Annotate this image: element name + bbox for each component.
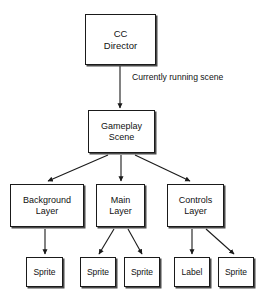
node-label-controls-1[interactable]: Label (174, 257, 210, 287)
node-label-label-controls-1: Label (180, 267, 205, 277)
node-label-sprite-bg-1: Sprite (31, 267, 57, 277)
node-label-controls-layer: Controls Layer (177, 195, 215, 216)
node-label-gameplay-scene: Gameplay Scene (99, 121, 144, 142)
node-label-sprite-controls-1: Sprite (223, 267, 249, 277)
node-cc-director[interactable]: CC Director (85, 14, 156, 65)
node-sprite-main-2[interactable]: Sprite (124, 257, 160, 287)
node-label-background-layer: Background Layer (21, 195, 73, 216)
annotation-currently-running-scene: Currently running scene (132, 72, 223, 82)
diagram-canvas: CC DirectorGameplay SceneBackground Laye… (0, 0, 265, 300)
node-controls-layer[interactable]: Controls Layer (167, 184, 224, 227)
node-background-layer[interactable]: Background Layer (10, 184, 84, 227)
edge-main-to-sprite-2 (128, 229, 142, 254)
node-sprite-main-1[interactable]: Sprite (80, 257, 116, 287)
edge-main-to-sprite-1 (99, 229, 114, 254)
node-label-main-layer: Main Layer (107, 195, 134, 216)
node-label-sprite-main-1: Sprite (85, 267, 111, 277)
node-label-cc-director: CC Director (102, 28, 139, 50)
node-gameplay-scene[interactable]: Gameplay Scene (88, 110, 155, 153)
node-main-layer[interactable]: Main Layer (96, 184, 145, 227)
node-sprite-controls-1[interactable]: Sprite (218, 257, 254, 287)
edge-scene-to-controls (135, 155, 190, 181)
node-sprite-bg-1[interactable]: Sprite (26, 257, 63, 287)
node-label-sprite-main-2: Sprite (129, 267, 155, 277)
edge-controls-to-sprite (206, 229, 234, 254)
edge-scene-to-background (48, 155, 108, 181)
